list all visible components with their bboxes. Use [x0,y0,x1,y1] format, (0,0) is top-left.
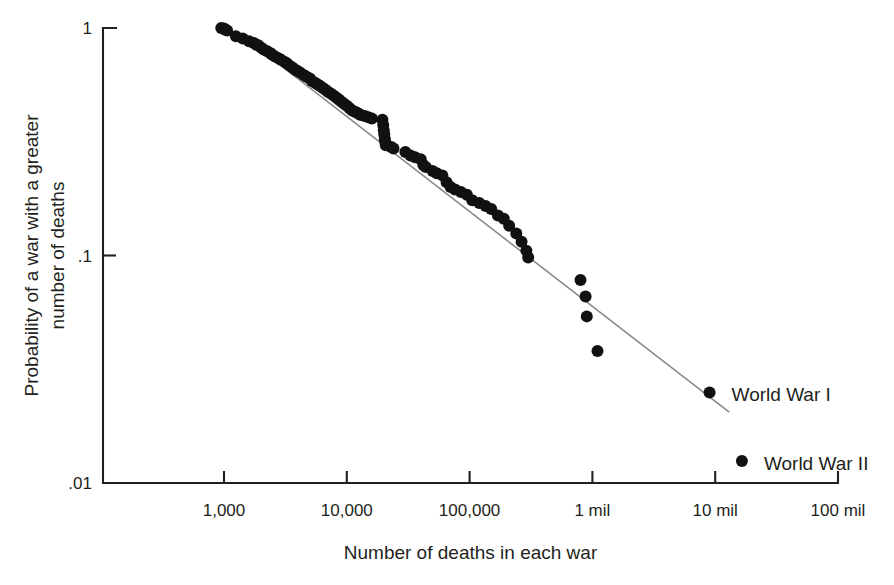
axis-titles: Number of deaths in each warProbability … [21,114,598,563]
axis-frame [103,28,838,483]
annotation-0: World War I [732,384,831,405]
data-point [704,386,716,398]
x-tick-label-4: 10 mil [693,501,738,520]
x-tick-label-3: 1 mil [574,501,610,520]
y-tick-label-2: .01 [68,474,92,493]
data-point [387,143,399,155]
data-point [581,310,593,322]
chart-axes [103,28,838,483]
x-tick-label-5: 100 mil [811,501,866,520]
power-law-fit-line [237,32,729,413]
data-point [366,113,378,125]
point-annotations: World War IWorld War II [732,384,869,473]
scatter-chart: 1,00010,000100,0001 mil10 mil100 mil1.1.… [0,0,894,585]
data-point [522,251,534,263]
y-axis-title-line-1: Probability of a war with a greater [21,114,42,397]
data-points [215,22,748,467]
x-tick-label-2: 100,000 [439,501,500,520]
data-point [580,291,592,303]
x-axis-title: Number of deaths in each war [344,542,598,563]
data-point [591,345,603,357]
x-tick-label-0: 1,000 [203,501,246,520]
y-tick-label-1: .1 [78,247,92,266]
y-axis-title-line-2: number of deaths [47,182,68,330]
tick-labels: 1,00010,000100,0001 mil10 mil100 mil1.1.… [68,19,865,520]
x-tick-label-1: 10,000 [321,501,373,520]
y-axis-title: Probability of a war with a greaternumbe… [21,114,68,397]
chart-canvas: 1,00010,000100,0001 mil10 mil100 mil1.1.… [0,0,894,585]
data-point [574,274,586,286]
annotation-1: World War II [764,453,869,474]
y-tick-label-0: 1 [83,19,92,38]
data-point [736,455,748,467]
trend-line [237,32,729,413]
